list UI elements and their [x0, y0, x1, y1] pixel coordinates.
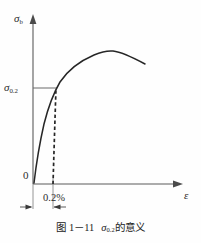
x-axis-arrowhead	[173, 181, 183, 188]
caption-number: 图 1－11	[56, 222, 94, 233]
figure-container: σb σ0.2 0 ε 0.2% 图 1－11σ0.2的意义	[0, 0, 201, 243]
caption-text: 的意义	[115, 221, 145, 233]
dimension-arrow-left	[26, 204, 33, 209]
x-axis-label: ε	[184, 190, 188, 201]
origin-label: 0	[23, 170, 29, 181]
y-axis-arrowhead	[30, 14, 37, 24]
yield-stress-label: σ0.2	[4, 82, 18, 94]
stress-strain-plot	[0, 0, 201, 243]
caption-symbol-subscript: 0.2	[107, 226, 115, 233]
offset-value-label: 0.2%	[43, 193, 65, 204]
y-axis-label-subscript: b	[19, 18, 22, 25]
stress-strain-curve	[34, 51, 145, 183]
figure-caption: 图 1－11σ0.2的意义	[0, 219, 201, 234]
dimension-arrow-right	[54, 204, 61, 209]
caption-symbol: σ0.2	[101, 222, 114, 233]
offset-elastic-dashed-line	[53, 88, 56, 184]
yield-stress-subscript: 0.2	[9, 87, 18, 94]
y-axis-label: σb	[14, 13, 23, 25]
